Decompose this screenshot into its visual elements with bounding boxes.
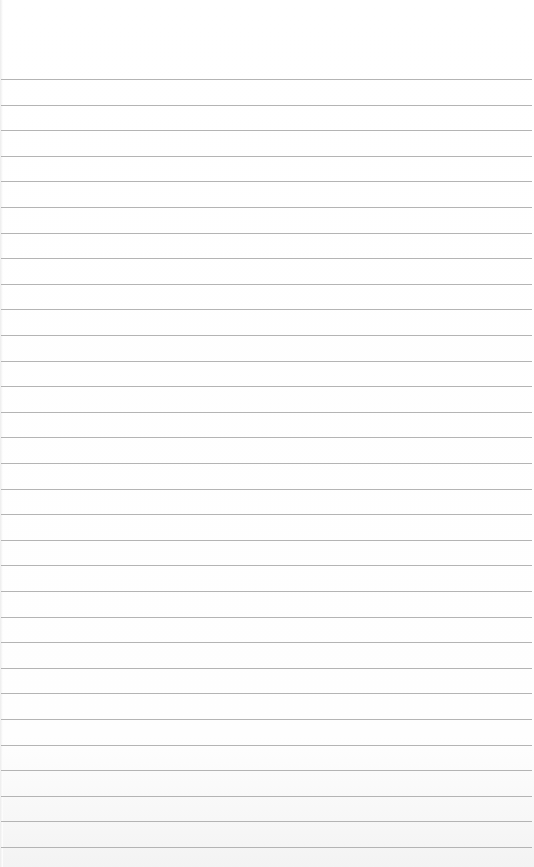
ruled-line [1, 745, 532, 746]
ruled-line [1, 233, 532, 234]
ruled-line [1, 130, 532, 131]
ruled-line [1, 642, 532, 643]
ruled-line [1, 437, 532, 438]
ruled-line [1, 361, 532, 362]
ruled-line [1, 565, 532, 566]
ruled-line [1, 284, 532, 285]
ruled-line [1, 693, 532, 694]
ruled-line [1, 591, 532, 592]
ruled-line [1, 821, 532, 822]
ruled-line [1, 668, 532, 669]
ruled-line [1, 514, 532, 515]
ruled-line [1, 79, 532, 80]
ruled-line [1, 386, 532, 387]
ruled-line [1, 207, 532, 208]
ruled-line [1, 335, 532, 336]
ruled-line [1, 489, 532, 490]
ruled-line [1, 463, 532, 464]
ruled-line [1, 847, 532, 848]
ruled-line [1, 540, 532, 541]
ruled-line [1, 309, 532, 310]
ruled-line [1, 105, 532, 106]
ruled-paper [0, 0, 534, 867]
ruled-line [1, 617, 532, 618]
ruled-line [1, 412, 532, 413]
ruled-line [1, 156, 532, 157]
ruled-line [1, 770, 532, 771]
ruled-line [1, 719, 532, 720]
ruled-line [1, 181, 532, 182]
ruled-line [1, 796, 532, 797]
ruled-line [1, 258, 532, 259]
